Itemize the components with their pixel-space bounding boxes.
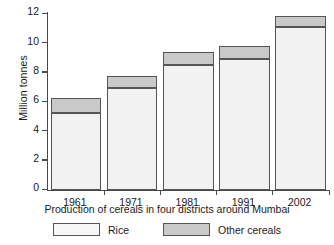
y-tick-label: 0 xyxy=(33,181,39,193)
legend-item-other-cereals: Other cereals xyxy=(163,223,281,236)
bar-1971 xyxy=(107,76,158,190)
y-tick-0: 0 xyxy=(42,189,47,190)
plot-area: 024681012 19611971198119912002 xyxy=(47,14,328,190)
bar-group xyxy=(48,14,328,190)
bar-segment-rice xyxy=(163,65,214,190)
x-tick-mark xyxy=(160,190,161,195)
legend-label-other-cereals: Other cereals xyxy=(218,224,281,236)
legend-item-rice: Rice xyxy=(53,223,129,236)
bar-1961 xyxy=(51,98,102,190)
bar-segment-other-cereals xyxy=(51,98,102,113)
legend-swatch-other-cereals xyxy=(163,223,210,236)
y-tick-8: 8 xyxy=(42,71,47,72)
x-tick-mark xyxy=(272,190,273,195)
bar-segment-rice xyxy=(219,59,270,190)
bar-segment-rice xyxy=(107,88,158,190)
y-tick-label: 8 xyxy=(33,64,39,76)
y-tick-6: 6 xyxy=(42,101,47,102)
y-tick-2: 2 xyxy=(42,159,47,160)
y-tick-12: 12 xyxy=(42,13,47,14)
bar-segment-rice xyxy=(275,27,326,190)
bar-segment-rice xyxy=(51,113,102,190)
bar-segment-other-cereals xyxy=(275,16,326,27)
y-tick-label: 10 xyxy=(27,35,39,47)
y-tick-label: 2 xyxy=(33,152,39,164)
chart-legend: Rice Other cereals xyxy=(0,223,334,236)
bar-2002 xyxy=(275,16,326,190)
y-tick-label: 4 xyxy=(33,123,39,135)
bar-segment-other-cereals xyxy=(107,76,158,88)
bar-segment-other-cereals xyxy=(163,52,214,65)
x-axis-title: Production of cereals in four districts … xyxy=(0,203,334,215)
bar-1981 xyxy=(163,52,214,190)
x-tick-mark xyxy=(329,190,330,195)
x-tick-mark xyxy=(216,190,217,195)
bar-chart-figure: Million tonnes 024681012 196119711981199… xyxy=(0,0,334,245)
legend-swatch-rice xyxy=(53,223,100,236)
legend-label-rice: Rice xyxy=(108,224,129,236)
bar-1991 xyxy=(219,46,270,190)
y-tick-label: 12 xyxy=(27,5,39,17)
bar-segment-other-cereals xyxy=(219,46,270,59)
y-tick-10: 10 xyxy=(42,42,47,43)
y-tick-4: 4 xyxy=(42,130,47,131)
x-tick-mark xyxy=(104,190,105,195)
y-tick-label: 6 xyxy=(33,93,39,105)
